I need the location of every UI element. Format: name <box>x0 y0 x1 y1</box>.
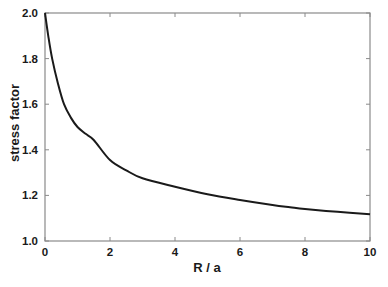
y-tick-label: 1.8 <box>22 53 39 65</box>
data-curve <box>45 13 370 214</box>
x-tick-label: 10 <box>364 246 377 258</box>
y-tick-label: 1.4 <box>22 144 39 156</box>
x-tick-labels: 0246810 <box>42 246 377 258</box>
y-tick-labels: 1.01.21.41.61.82.0 <box>22 7 39 247</box>
x-tick-label: 6 <box>237 246 243 258</box>
y-axis-label: stress factor <box>7 84 22 162</box>
y-tick-label: 1.2 <box>22 189 38 201</box>
x-axis-label: R / a <box>193 260 221 275</box>
plot-frame <box>45 13 370 241</box>
x-tick-label: 2 <box>107 246 113 258</box>
x-tick-label: 0 <box>42 246 48 258</box>
x-tick-label: 4 <box>172 246 179 258</box>
y-tick-label: 1.0 <box>22 235 38 247</box>
chart: 0246810 1.01.21.41.61.82.0 R / a stress … <box>0 0 388 287</box>
y-tick-label: 2.0 <box>22 7 38 19</box>
y-tick-label: 1.6 <box>22 98 38 110</box>
tick-marks <box>45 13 370 241</box>
x-tick-label: 8 <box>302 246 309 258</box>
